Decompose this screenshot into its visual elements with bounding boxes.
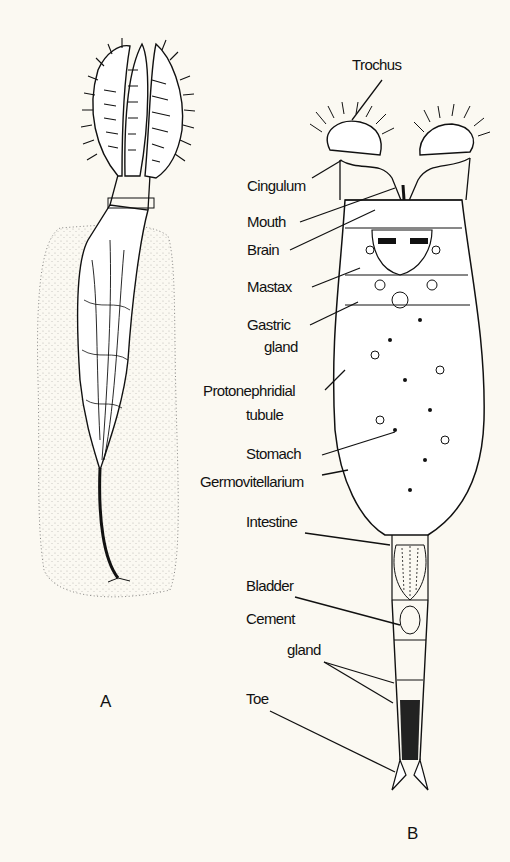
label-cement-gland: gland bbox=[287, 642, 321, 658]
label-germovitellarium: Germovitellarium bbox=[200, 474, 304, 490]
label-protonephridial: Protonephridial bbox=[203, 383, 295, 399]
label-mastax: Mastax bbox=[247, 279, 292, 295]
label-cement: Cement bbox=[246, 611, 295, 627]
label-brain: Brain bbox=[247, 242, 279, 258]
label-intestine: Intestine bbox=[246, 514, 297, 530]
panel-b-illustration bbox=[310, 102, 490, 790]
label-trochus: Trochus bbox=[352, 57, 401, 73]
panel-a-illustration bbox=[38, 38, 195, 597]
panel-label-b: B bbox=[407, 824, 418, 844]
figure-artwork bbox=[0, 0, 510, 862]
label-cingulum: Cingulum bbox=[247, 178, 306, 194]
label-tubule: tubule bbox=[246, 407, 283, 423]
label-stomach: Stomach bbox=[246, 446, 301, 462]
panel-label-a: A bbox=[100, 692, 111, 712]
label-mouth: Mouth bbox=[247, 214, 286, 230]
label-bladder: Bladder bbox=[246, 578, 294, 594]
label-gastric: Gastric bbox=[247, 317, 290, 333]
label-gastric-gland: gland bbox=[264, 339, 298, 355]
label-toe: Toe bbox=[246, 691, 268, 707]
